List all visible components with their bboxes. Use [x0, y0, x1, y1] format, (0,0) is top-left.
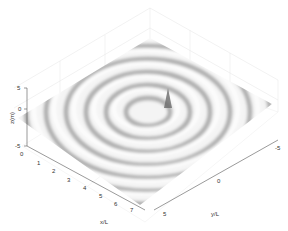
y-tick-0: 0 — [217, 178, 221, 184]
x-tick-0: 0 — [20, 151, 24, 157]
y-tick-5: 5 — [163, 211, 167, 217]
surface — [0, 0, 288, 231]
z-tick-0: 0 — [18, 106, 22, 112]
x-tick-6: 6 — [114, 201, 118, 207]
x-tick-7: 7 — [130, 207, 134, 213]
y-axis-label: y/L — [211, 211, 220, 217]
z-tick-5: 5 — [17, 85, 21, 91]
x-tick-3: 3 — [67, 177, 71, 183]
x-tick-2: 2 — [52, 168, 56, 174]
z-tick-neg5: -5 — [15, 143, 21, 149]
x-tick-5: 5 — [99, 193, 103, 199]
x-tick-1: 1 — [37, 160, 41, 166]
y-tick-neg5: -5 — [275, 145, 281, 151]
z-axis-label: z(m) — [9, 112, 15, 124]
x-axis-label: x/L — [100, 219, 109, 225]
surface-plot: 5 0 -5 z(m) 0 1 2 3 4 5 6 7 x/L -5 0 5 y… — [0, 0, 288, 231]
